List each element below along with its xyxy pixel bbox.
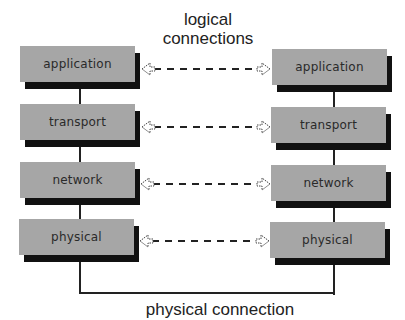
left-layer-network: network [20,162,135,198]
layer-box: application [272,49,387,85]
layer-label: application [295,60,363,74]
layer-label: transport [49,115,106,129]
layer-label: network [52,173,102,187]
left-layer-transport: transport [20,104,135,140]
left-layer-application: application [20,46,135,82]
left-layer-physical: physical [19,219,134,255]
logical-connection-physical [138,234,271,248]
layer-box: physical [270,222,385,258]
logical-connection-network [139,177,272,191]
layer-box: transport [271,107,386,143]
right-layer-transport: transport [271,107,386,143]
right-layer-network: network [271,165,386,201]
title-line-2: connections [150,29,266,48]
right-layer-physical: physical [270,222,385,258]
physical-connection-label: physical connection [120,300,320,320]
right-layer-application: application [272,49,387,85]
layer-box: network [20,162,135,198]
layer-label: network [303,176,353,190]
layer-label: transport [300,118,357,132]
title-line-1: logical [150,10,266,29]
layer-label: physical [51,230,102,244]
physical-link-line [79,292,335,294]
logical-connection-application [140,62,272,76]
logical-connection-transport [140,120,272,134]
layer-label: physical [302,233,353,247]
diagram-title: logical connections [150,10,266,48]
layer-box: physical [19,219,134,255]
layer-box: network [271,165,386,201]
layer-box: transport [20,104,135,140]
layer-box: application [20,46,135,82]
layer-label: application [43,57,111,71]
